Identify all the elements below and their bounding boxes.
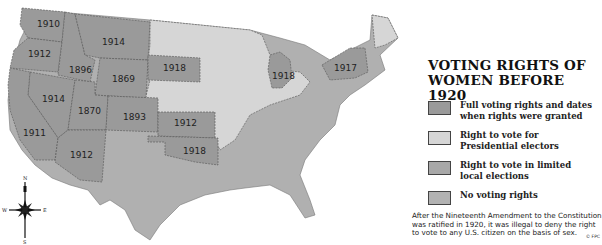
footnote: After the Nineteenth Amendment to the Co… xyxy=(412,212,602,238)
legend-swatch xyxy=(428,191,451,205)
legend-label: No voting rights xyxy=(460,190,595,201)
label-1910: 1910 xyxy=(37,19,60,29)
title-line-1: VOTING RIGHTS OF xyxy=(428,58,602,73)
us-map: 1910 1912 1896 1914 1869 1918 1914 1870 … xyxy=(0,0,410,245)
compass-e: E xyxy=(43,207,47,213)
legend-item-presidential: Right to vote for Presidential electors xyxy=(428,130,595,151)
compass-rose-icon: N S E W xyxy=(2,175,47,245)
legend: VOTING RIGHTS OF WOMEN BEFORE 1920 Full … xyxy=(428,58,602,103)
legend-item-full-rights: Full voting rights and dates when rights… xyxy=(428,100,595,121)
label-1869: 1869 xyxy=(112,74,135,84)
label-1914-mt: 1914 xyxy=(102,37,125,47)
compass-w: W xyxy=(2,207,8,213)
label-1912-ks: 1912 xyxy=(174,118,197,128)
map-title: VOTING RIGHTS OF WOMEN BEFORE 1920 xyxy=(428,58,602,103)
legend-swatch xyxy=(428,161,451,175)
legend-swatch xyxy=(428,131,451,145)
credit: © FPC xyxy=(586,234,600,239)
label-1912-az: 1912 xyxy=(70,150,93,160)
label-1918-sd: 1918 xyxy=(163,63,186,73)
label-1893: 1893 xyxy=(123,112,146,122)
us-map-svg: 1910 1912 1896 1914 1869 1918 1914 1870 … xyxy=(0,0,410,245)
legend-item-limited-local: Right to vote in limited local elections xyxy=(428,160,595,181)
label-1914-nv: 1914 xyxy=(42,94,65,104)
legend-item-no-rights: No voting rights xyxy=(428,190,595,205)
legend-label: Full voting rights and dates when rights… xyxy=(460,100,595,121)
region-maine xyxy=(372,15,398,48)
label-1918-ok: 1918 xyxy=(183,146,206,156)
label-1911: 1911 xyxy=(23,128,46,138)
legend-swatch xyxy=(428,101,451,115)
label-1870: 1870 xyxy=(78,106,101,116)
label-1917: 1917 xyxy=(334,63,357,73)
label-1896: 1896 xyxy=(69,65,92,75)
label-1918-mi: 1918 xyxy=(272,71,295,81)
label-1912-or: 1912 xyxy=(28,49,51,59)
compass-n: N xyxy=(23,175,28,181)
title-line-2: WOMEN BEFORE 1920 xyxy=(428,73,602,103)
legend-label: Right to vote in limited local elections xyxy=(460,160,595,181)
compass-s: S xyxy=(23,239,27,245)
legend-label: Right to vote for Presidential electors xyxy=(460,130,595,151)
